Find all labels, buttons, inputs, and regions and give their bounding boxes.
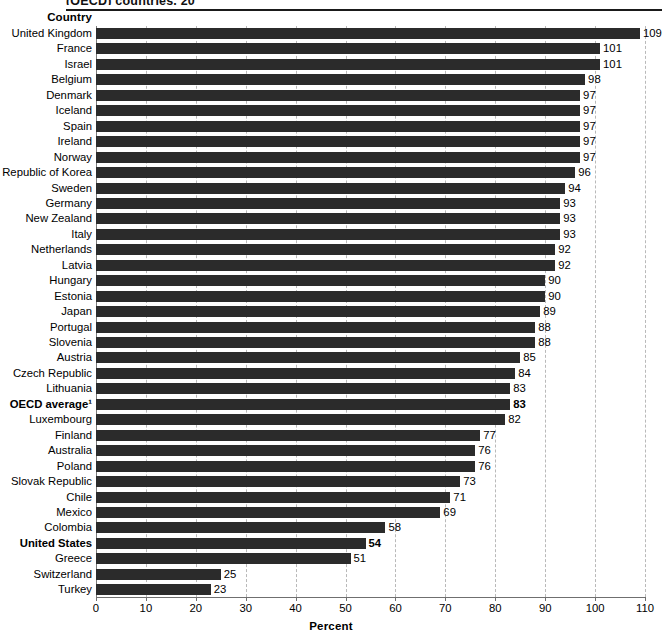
x-tick-0	[96, 597, 97, 601]
row-label: Denmark	[0, 89, 92, 102]
bar-row: Luxembourg82	[0, 412, 662, 428]
row-label: France	[0, 42, 92, 55]
row-label: Slovenia	[0, 336, 92, 349]
bar-row: Iceland97	[0, 103, 662, 119]
bar-row: Chile71	[0, 490, 662, 506]
bar-value-label: 51	[354, 552, 367, 565]
row-label: Republic of Korea	[0, 166, 92, 179]
row-label: Norway	[0, 151, 92, 164]
bar	[96, 198, 560, 209]
bar-value-label: 71	[453, 491, 466, 504]
x-tick-label-10: 10	[140, 602, 153, 614]
bar-row: Germany93	[0, 196, 662, 212]
row-label: Austria	[0, 351, 92, 364]
bar-value-label: 88	[538, 321, 551, 334]
x-tick-label-90: 90	[539, 602, 552, 614]
x-tick-100	[595, 597, 596, 601]
bar-value-label: 93	[563, 212, 576, 225]
bar-row: Spain97	[0, 119, 662, 135]
bar-value-label: 92	[558, 259, 571, 272]
bar-value-label: 83	[513, 382, 526, 395]
bar-value-label: 97	[583, 89, 596, 102]
bar-value-label: 84	[518, 367, 531, 380]
bar-row: Estonia90	[0, 289, 662, 305]
row-label: New Zealand	[0, 212, 92, 225]
x-tick-label-40: 40	[289, 602, 302, 614]
x-tick-80	[495, 597, 496, 601]
bar-value-label: 76	[478, 460, 491, 473]
row-label: Israel	[0, 58, 92, 71]
figure-title: (OECD) countries, 20	[66, 0, 466, 5]
bar	[96, 167, 575, 178]
bar-value-label: 97	[583, 151, 596, 164]
bar	[96, 59, 600, 70]
bar	[96, 229, 560, 240]
bar-value-label: 96	[578, 166, 591, 179]
bar-row: Japan89	[0, 304, 662, 320]
bar-value-label: 97	[583, 120, 596, 133]
bar-row: United States54	[0, 536, 662, 552]
bar	[96, 90, 580, 101]
bar-row: Denmark97	[0, 88, 662, 104]
bar	[96, 244, 555, 255]
bar-row: Hungary90	[0, 273, 662, 289]
row-label: Turkey	[0, 583, 92, 596]
x-tick-label-30: 30	[239, 602, 252, 614]
bar-row: France101	[0, 41, 662, 57]
row-label: Japan	[0, 305, 92, 318]
x-tick-60	[395, 597, 396, 601]
x-axis-title: Percent	[0, 620, 662, 632]
bar	[96, 275, 545, 286]
bar	[96, 213, 560, 224]
bar-row: Israel101	[0, 57, 662, 73]
bar	[96, 105, 580, 116]
row-label: United States	[0, 537, 92, 550]
bar	[96, 352, 520, 363]
bar-row: Lithuania83	[0, 381, 662, 397]
x-tick-70	[445, 597, 446, 601]
bar-row: Republic of Korea96	[0, 165, 662, 181]
x-tick-label-50: 50	[339, 602, 352, 614]
bar-value-label: 97	[583, 104, 596, 117]
bar	[96, 183, 565, 194]
bar	[96, 476, 460, 487]
bar	[96, 538, 366, 549]
country-column-header: Country	[0, 11, 92, 23]
row-label: Chile	[0, 491, 92, 504]
bar-row: Czech Republic84	[0, 366, 662, 382]
bar-value-label: 94	[568, 182, 581, 195]
row-label: Hungary	[0, 274, 92, 287]
row-label: Italy	[0, 228, 92, 241]
bar-value-label: 93	[563, 228, 576, 241]
row-label: Lithuania	[0, 382, 92, 395]
bar-value-label: 93	[563, 197, 576, 210]
row-label: Switzerland	[0, 568, 92, 581]
bar-value-label: 77	[483, 429, 496, 442]
bar-value-label: 73	[463, 475, 476, 488]
row-label: Slovak Republic	[0, 475, 92, 488]
row-label: OECD average¹	[0, 398, 92, 411]
row-label: Netherlands	[0, 243, 92, 256]
bar-value-label: 76	[478, 444, 491, 457]
bar-value-label: 97	[583, 135, 596, 148]
bar	[96, 522, 385, 533]
bar-row: Greece51	[0, 551, 662, 567]
bar-value-label: 98	[588, 73, 601, 86]
bar-value-label: 101	[603, 42, 622, 55]
x-tick-label-110: 110	[636, 602, 654, 614]
bar-value-label: 83	[513, 398, 526, 411]
bar-value-label: 85	[523, 351, 536, 364]
row-label: Australia	[0, 444, 92, 457]
bar	[96, 291, 545, 302]
bar-row: United Kingdom109	[0, 26, 662, 42]
bar-row: New Zealand93	[0, 211, 662, 227]
x-tick-90	[545, 597, 546, 601]
bar	[96, 136, 580, 147]
bar	[96, 43, 600, 54]
bar	[96, 152, 580, 163]
bar-value-label: 69	[443, 506, 456, 519]
bar-value-label: 54	[369, 537, 382, 550]
bar	[96, 445, 475, 456]
table-top-rule	[66, 9, 662, 11]
bar-row: Australia76	[0, 443, 662, 459]
